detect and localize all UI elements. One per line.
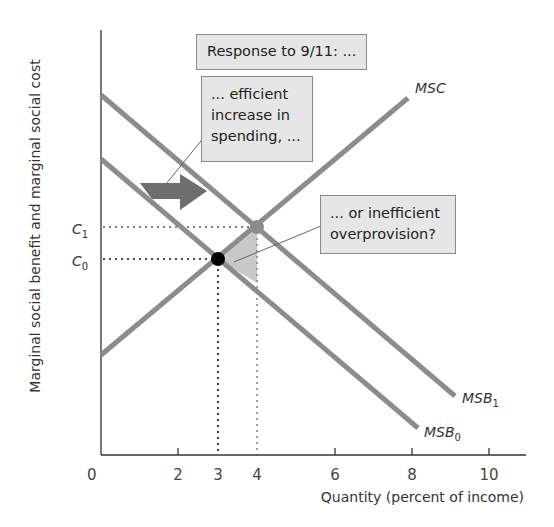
- x-tick-0: 0: [87, 466, 97, 484]
- msb0-label: MSB0: [424, 424, 461, 443]
- x-tick-4: 4: [252, 466, 262, 484]
- equilibrium-point-c0: [211, 252, 225, 266]
- x-tick-10: 10: [479, 466, 498, 484]
- x-tick-6: 6: [330, 466, 340, 484]
- x-tick-3: 3: [213, 466, 223, 484]
- overprovision-line-2: overprovision?: [330, 224, 455, 245]
- efficient-line-1: ... efficient: [211, 84, 312, 105]
- equilibrium-point-c1: [250, 220, 264, 234]
- c0-label: C0: [72, 253, 88, 272]
- x-tick-2: 2: [173, 466, 183, 484]
- overprovision-box: ... or inefficient overprovision?: [320, 195, 456, 254]
- x-tick-8: 8: [407, 466, 417, 484]
- response-title-box: Response to 9/11: ...: [196, 34, 367, 70]
- overprovision-line-1: ... or inefficient: [330, 203, 455, 224]
- x-axis-label: Quantity (percent of income): [321, 489, 524, 505]
- x-ticks: [178, 448, 489, 455]
- c1-label: C1: [72, 221, 88, 240]
- efficient-increase-box: ... efficient increase in spending, ...: [201, 76, 313, 162]
- msc-label: MSC: [415, 80, 446, 96]
- efficient-line-2: increase in: [211, 105, 312, 126]
- response-title-text: Response to 9/11: ...: [207, 43, 356, 59]
- msb1-label: MSB1: [462, 390, 499, 409]
- efficient-line-3: spending, ...: [211, 126, 312, 147]
- y-axis-label: Marginal social benefit and marginal soc…: [27, 59, 43, 393]
